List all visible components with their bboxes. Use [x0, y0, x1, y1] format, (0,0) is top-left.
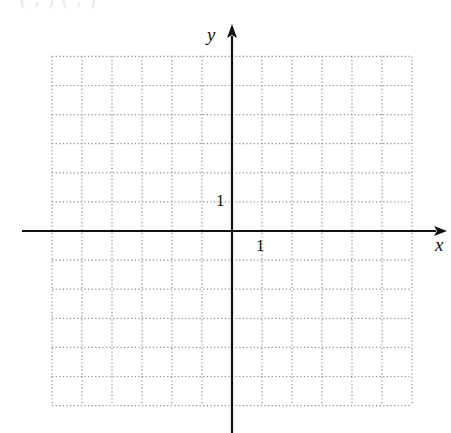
y-axis-label: y	[205, 24, 216, 45]
coordinate-plane: ( , ) ( , ) y x 1 1	[0, 0, 451, 433]
x-axis-label: x	[434, 234, 444, 255]
cutoff-header-text: ( , ) ( , )	[20, 0, 97, 10]
y-axis-arrow-icon	[227, 24, 237, 38]
x-axis	[22, 226, 447, 236]
y-tick-label-1: 1	[216, 191, 225, 210]
x-tick-label-1: 1	[256, 236, 265, 255]
grid-plot: y x 1 1	[0, 0, 451, 433]
